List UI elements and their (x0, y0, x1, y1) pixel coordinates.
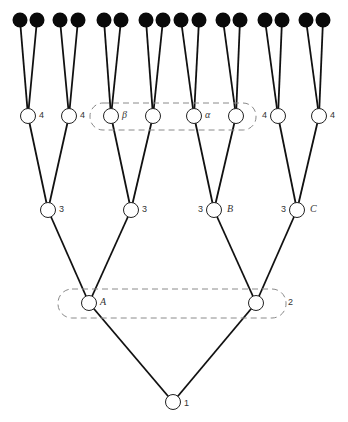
tree-edge (104, 20, 111, 116)
leaf-node (174, 13, 189, 28)
level-4-node (104, 109, 119, 124)
root-node (166, 395, 181, 410)
tree-edge (297, 116, 319, 210)
node-label: 3 (59, 204, 64, 214)
node-label: 4 (262, 110, 267, 120)
leaf-node (139, 13, 154, 28)
level-3-node (41, 203, 56, 218)
tree-edge (153, 20, 163, 116)
tree-edge (278, 116, 297, 210)
node-label: A (99, 296, 107, 307)
level-4-node (187, 109, 202, 124)
node-label: B (227, 203, 233, 214)
leaf-node (316, 13, 331, 28)
leaf-node (53, 13, 68, 28)
tree-edge (48, 116, 69, 210)
tree-edge (60, 20, 69, 116)
level-4-node (229, 109, 244, 124)
leaf-node (233, 13, 248, 28)
level-2-node (82, 296, 97, 311)
node-label: 1 (184, 398, 189, 408)
leaf-node (13, 13, 28, 28)
node-label: 2 (288, 297, 293, 307)
node-label: 3 (142, 204, 147, 214)
level-4-node (146, 109, 161, 124)
node-label: 3 (198, 204, 203, 214)
level-3-node (207, 203, 222, 218)
tree-edge (223, 20, 236, 116)
tree-edge (194, 20, 199, 116)
leaf-node (192, 13, 207, 28)
tree-edge (236, 20, 240, 116)
tree-edge (265, 20, 278, 116)
level-4-node (62, 109, 77, 124)
tree-edge (20, 20, 28, 116)
tree-edge (69, 20, 78, 116)
tree-edge (28, 116, 48, 210)
tree-edge (319, 20, 323, 116)
node-groupings (58, 103, 286, 318)
level-4-node (271, 109, 286, 124)
leaf-node (97, 13, 112, 28)
tree-edge (306, 20, 319, 116)
leaf-node (30, 13, 45, 28)
level-4-node (21, 109, 36, 124)
binary-tree-diagram: 1A2333B3C44βα44 (0, 0, 348, 422)
node-label: β (121, 109, 127, 120)
leaf-node (275, 13, 290, 28)
tree-edge (146, 20, 153, 116)
tree-edge (111, 20, 121, 116)
tree-edge (278, 20, 282, 116)
level-4-node (312, 109, 327, 124)
level-3-node (124, 203, 139, 218)
leaf-node (299, 13, 314, 28)
leaf-node (258, 13, 273, 28)
tree-edge (28, 20, 37, 116)
node-label: 4 (39, 110, 44, 120)
level-2-node (249, 296, 264, 311)
node-label: α (205, 109, 211, 120)
leaf-node (114, 13, 129, 28)
node-labels: 1A2333B3C44βα44 (39, 109, 335, 408)
node-label: C (310, 203, 317, 214)
tree-edges (20, 20, 323, 402)
node-label: 4 (80, 110, 85, 120)
node-label: 4 (330, 110, 335, 120)
node-label: 3 (281, 204, 286, 214)
leaf-node (71, 13, 86, 28)
leaf-node (216, 13, 231, 28)
leaf-node (156, 13, 171, 28)
level-3-node (290, 203, 305, 218)
tree-edge (181, 20, 194, 116)
